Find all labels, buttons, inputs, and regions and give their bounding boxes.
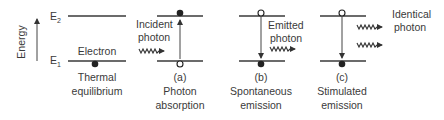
panel-caption-letter: (a) bbox=[174, 71, 187, 83]
energy-axis: Energy E2 E1 bbox=[15, 10, 61, 68]
upper-level-label: E2 bbox=[50, 10, 61, 24]
panel-spontaneous-emission: Emitted photon (b) Spontaneous emission bbox=[230, 10, 304, 111]
emitted-photon-wave-icon bbox=[270, 47, 295, 51]
incident-photon-wave-icon bbox=[139, 49, 164, 53]
panel-thermal-equilibrium: Electron Thermal equilibrium bbox=[68, 16, 126, 97]
panel-caption-line2: emission bbox=[240, 99, 282, 111]
hole-circle-icon bbox=[258, 10, 264, 16]
electron-label: Electron bbox=[78, 45, 117, 57]
identical-photon-label-line1: Identical bbox=[392, 8, 431, 20]
panel-caption-line1: Thermal bbox=[78, 71, 117, 83]
panel-caption-line1: Photon bbox=[163, 85, 196, 97]
panel-caption-line2: absorption bbox=[155, 99, 204, 111]
identical-photon-wave-icon bbox=[357, 25, 382, 29]
hole-circle-icon bbox=[339, 10, 345, 16]
energy-level-diagram: Energy E2 E1 Electron Thermal equilibriu… bbox=[0, 0, 444, 120]
energy-axis-label: Energy bbox=[15, 25, 27, 59]
panel-caption-line2: emission bbox=[321, 99, 363, 111]
panel-caption-line1: Stimulated bbox=[317, 85, 367, 97]
panel-caption-letter: (b) bbox=[255, 71, 268, 83]
electron-dot-icon bbox=[92, 61, 99, 68]
incident-photon-label-line2: photon bbox=[138, 31, 170, 43]
panel-stimulated-emission: Identical photon (c) Stimulated emission bbox=[317, 8, 431, 111]
emitted-photon-label-line2: photon bbox=[270, 32, 302, 44]
panel-caption-line2: equilibrium bbox=[72, 85, 123, 97]
lower-level-label: E1 bbox=[50, 54, 61, 68]
panel-caption-line1: Spontaneous bbox=[230, 85, 292, 97]
electron-dot-icon bbox=[339, 61, 346, 68]
emitted-photon-label-line1: Emitted bbox=[268, 19, 304, 31]
incident-photon-label-line1: Incident bbox=[136, 18, 173, 30]
electron-dot-icon bbox=[177, 10, 184, 17]
identical-photon-label-line2: photon bbox=[394, 21, 426, 33]
panel-caption-letter: (c) bbox=[336, 71, 348, 83]
electron-dot-icon bbox=[258, 61, 265, 68]
hole-circle-icon bbox=[177, 61, 183, 67]
panel-photon-absorption: Incident photon (a) Photon absorption bbox=[136, 10, 205, 111]
stimulating-photon-wave-icon bbox=[357, 43, 382, 47]
